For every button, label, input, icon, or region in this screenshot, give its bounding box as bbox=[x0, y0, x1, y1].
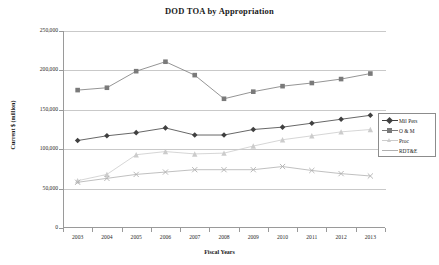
legend-label: Mil Pers bbox=[399, 116, 417, 126]
x-axis-tick-mark bbox=[180, 228, 181, 232]
x-axis-tick-label: 2012 bbox=[326, 234, 356, 240]
y-axis-tick-mark bbox=[59, 31, 63, 32]
chart-root: DOD TOA by Appropriation Current $ (mill… bbox=[0, 0, 439, 265]
x-axis-tick-mark bbox=[151, 228, 152, 232]
legend-item[interactable]: O & M bbox=[381, 126, 435, 136]
y-axis-title: Current $ (million) bbox=[10, 65, 16, 185]
x-axis-tick-mark bbox=[385, 228, 386, 232]
x-axis-tick-mark bbox=[297, 228, 298, 232]
x-axis-tick-mark bbox=[92, 228, 93, 232]
legend-item[interactable]: Mil Pers bbox=[381, 116, 435, 126]
gridline bbox=[64, 70, 386, 71]
y-axis-tick-label: 250,000 bbox=[40, 27, 58, 33]
x-axis-tick-mark bbox=[63, 228, 64, 232]
chart-title: DOD TOA by Appropriation bbox=[0, 6, 439, 16]
legend[interactable]: Mil PersO & MProcRDT&E bbox=[378, 113, 436, 157]
legend-label: O & M bbox=[399, 126, 415, 136]
legend-swatch-triangle-icon bbox=[381, 136, 399, 146]
x-axis-tick-label: 2006 bbox=[150, 234, 180, 240]
x-axis-tick-label: 2013 bbox=[355, 234, 385, 240]
y-axis-tick-mark bbox=[59, 149, 63, 150]
x-axis-tick-mark bbox=[356, 228, 357, 232]
x-axis-tick-label: 2005 bbox=[121, 234, 151, 240]
legend-swatch-square-icon bbox=[381, 126, 399, 136]
x-axis-tick-mark bbox=[326, 228, 327, 232]
legend-item[interactable]: RDT&E bbox=[381, 146, 435, 156]
gridline bbox=[64, 110, 386, 111]
y-axis-tick-label: 200,000 bbox=[40, 66, 58, 72]
y-axis-tick-mark bbox=[59, 189, 63, 190]
x-axis-tick-label: 2007 bbox=[180, 234, 210, 240]
plot-area bbox=[63, 31, 385, 228]
y-axis-tick-label: 50,000 bbox=[43, 185, 58, 191]
gridline bbox=[64, 189, 386, 190]
legend-label: Proc bbox=[399, 136, 409, 146]
legend-swatch-cross-icon bbox=[381, 146, 399, 156]
x-axis-tick-label: 2008 bbox=[209, 234, 239, 240]
y-axis-tick-mark bbox=[59, 70, 63, 71]
x-axis-tick-mark bbox=[122, 228, 123, 232]
legend-item[interactable]: Proc bbox=[381, 136, 435, 146]
x-axis-tick-mark bbox=[239, 228, 240, 232]
y-axis-tick-label: 150,000 bbox=[40, 106, 58, 112]
x-axis-title: Fiscal Years bbox=[0, 249, 439, 255]
gridline bbox=[64, 149, 386, 150]
x-axis-tick-label: 2004 bbox=[92, 234, 122, 240]
legend-label: RDT&E bbox=[399, 146, 417, 156]
y-axis-tick-label: 100,000 bbox=[40, 145, 58, 151]
x-axis-tick-label: 2009 bbox=[238, 234, 268, 240]
x-axis-tick-mark bbox=[268, 228, 269, 232]
x-axis-tick-label: 2011 bbox=[297, 234, 327, 240]
y-axis-tick-label: 0 bbox=[55, 224, 58, 230]
x-axis-tick-label: 2003 bbox=[63, 234, 93, 240]
gridline bbox=[64, 31, 386, 32]
x-axis-tick-label: 2010 bbox=[268, 234, 298, 240]
legend-swatch-diamond-icon bbox=[381, 116, 399, 126]
y-axis-tick-mark bbox=[59, 110, 63, 111]
x-axis-tick-mark bbox=[209, 228, 210, 232]
